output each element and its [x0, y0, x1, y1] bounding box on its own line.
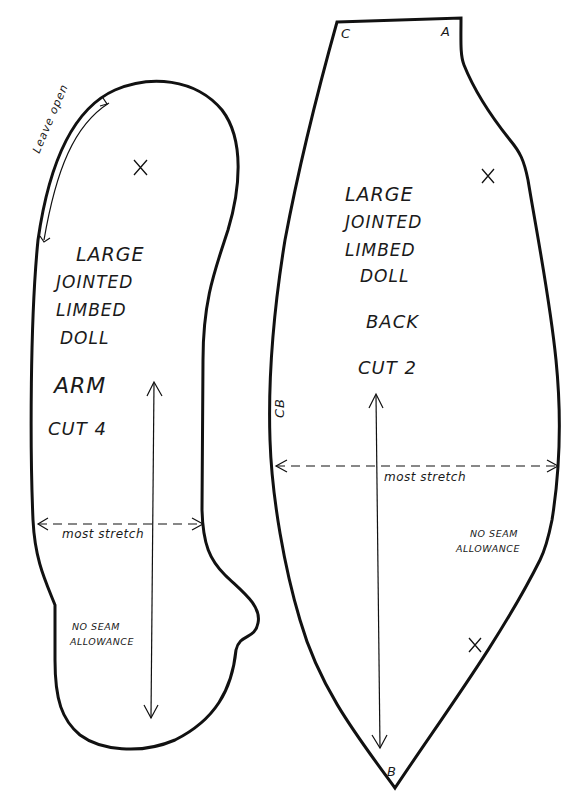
arm-cut-count: CUT 4 [48, 418, 107, 439]
back-grainline [376, 395, 380, 748]
back-corner-label-b: B [387, 764, 397, 779]
arm-grainline [151, 383, 154, 718]
arm-title-line-2: JOINTED [56, 272, 133, 292]
arm-title-line-3: LIMBED [56, 300, 127, 320]
back-title-line-2: JOINTED [345, 212, 422, 232]
arm-title-line-1: LARGE [76, 243, 145, 265]
back-cb-label: CB [272, 398, 287, 418]
back-x-marker-top [482, 169, 494, 183]
arm-stretch-label: most stretch [62, 527, 144, 541]
arm-x-marker [134, 160, 147, 175]
back-piece-outline [270, 18, 560, 788]
arm-piece-name: ARM [54, 373, 106, 398]
pattern-outlines [0, 0, 578, 805]
back-piece-name: BACK [366, 311, 419, 332]
back-seam-note-line-1: NO SEAM [470, 528, 518, 539]
arm-seam-note-line-1: NO SEAM [72, 621, 120, 632]
back-stretch-label: most stretch [384, 470, 466, 484]
arm-seam-note-line-2: ALLOWANCE [70, 636, 134, 647]
back-corner-label-c: C [341, 26, 351, 41]
back-seam-note-line-2: ALLOWANCE [456, 543, 520, 554]
back-title-line-3: LIMBED [345, 240, 416, 260]
arm-title-line-4: DOLL [60, 328, 109, 348]
back-x-marker-bottom [469, 638, 481, 652]
back-corner-label-a: A [441, 24, 451, 39]
back-cut-count: CUT 2 [358, 357, 417, 378]
back-title-line-1: LARGE [345, 183, 414, 205]
arm-piece-outline [31, 81, 258, 749]
back-title-line-4: DOLL [360, 266, 409, 286]
